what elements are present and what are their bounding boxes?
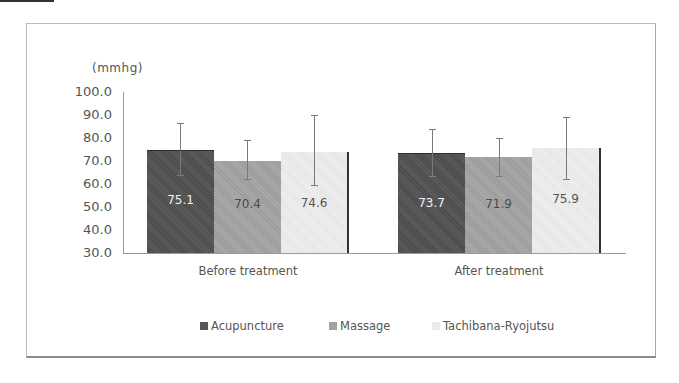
bar-value-label: 75.1 <box>147 193 214 207</box>
legend-item-tachibana-ryojutsu: Tachibana-Ryojutsu <box>432 319 554 333</box>
y-tick: 90.0 <box>52 107 112 122</box>
legend-item-acupuncture: Acupuncture <box>200 319 284 333</box>
corner-mark <box>0 0 54 6</box>
error-bar <box>247 140 248 180</box>
y-axis-unit-label: (mmhg) <box>92 61 143 75</box>
bar-before-tachibana: 74.6 <box>281 152 349 253</box>
legend-swatch-icon <box>432 322 440 330</box>
legend-label: Tachibana-Ryojutsu <box>443 319 554 333</box>
category-label-before: Before treatment <box>148 264 348 278</box>
y-axis-line <box>123 92 124 253</box>
error-bar <box>566 117 567 180</box>
category-label-after: After treatment <box>399 264 599 278</box>
y-tick: 30.0 <box>52 245 112 260</box>
legend-swatch-icon <box>200 322 208 330</box>
legend-label: Acupuncture <box>211 319 284 333</box>
bar-value-label: 74.6 <box>281 196 347 210</box>
error-bar <box>432 129 433 177</box>
legend-swatch-icon <box>329 322 337 330</box>
y-tick: 70.0 <box>52 153 112 168</box>
bar-value-label: 70.4 <box>214 197 281 211</box>
error-bar <box>314 115 315 186</box>
y-tick: 80.0 <box>52 130 112 145</box>
error-bar <box>180 123 181 176</box>
y-tick: 50.0 <box>52 199 112 214</box>
error-bar <box>499 138 500 177</box>
legend: Acupuncture Massage Tachibana-Ryojutsu <box>0 319 679 335</box>
y-tick: 100.0 <box>52 84 112 99</box>
y-tick: 40.0 <box>52 222 112 237</box>
x-axis-line <box>123 253 626 254</box>
legend-item-massage: Massage <box>329 319 390 333</box>
bar-value-label: 75.9 <box>532 192 599 206</box>
y-tick: 60.0 <box>52 176 112 191</box>
bar-value-label: 71.9 <box>465 197 532 211</box>
bar-value-label: 73.7 <box>398 196 465 210</box>
legend-label: Massage <box>340 319 390 333</box>
